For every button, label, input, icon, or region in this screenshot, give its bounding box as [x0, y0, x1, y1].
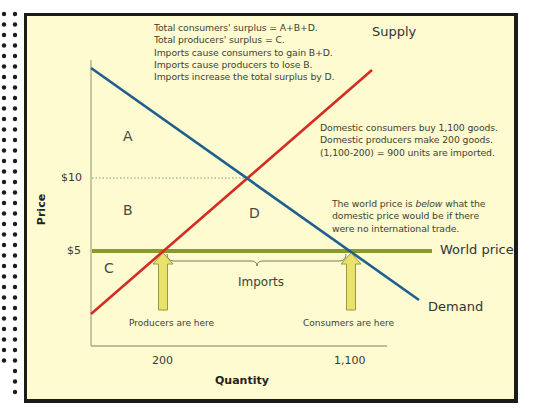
summary-line: Imports cause producers to lose B. — [154, 59, 334, 71]
world-price-label: World price — [440, 242, 514, 257]
domestic-line: (1,100-200) = 900 units are imported. — [320, 147, 498, 159]
domestic-line: Domestic producers make 200 goods. — [320, 134, 498, 146]
region-b-label: B — [123, 202, 133, 218]
x-axis-title: Quantity — [215, 374, 269, 387]
surplus-summary-notes: Total consumers' surplus = A+B+D. Total … — [154, 22, 334, 83]
summary-line: Total consumers' surplus = A+B+D. — [154, 22, 334, 34]
x-tick-1100: 1,100 — [334, 354, 366, 367]
world-note-text: The world price is — [332, 198, 415, 209]
y-tick-5: $5 — [67, 244, 81, 257]
x-tick-200: 200 — [152, 354, 173, 367]
region-d-label: D — [249, 205, 260, 221]
producers-here-label: Producers are here — [129, 318, 214, 328]
world-note-line: were no international trade. — [332, 223, 485, 235]
world-note-emphasis: below — [415, 198, 442, 209]
y-tick-10: $10 — [61, 171, 82, 184]
world-note-line: The world price is below what the — [332, 198, 485, 210]
demand-label: Demand — [428, 299, 483, 314]
summary-line: Imports increase the total surplus by D. — [154, 71, 334, 83]
producers-arrow — [153, 253, 173, 310]
domestic-line: Domestic consumers buy 1,100 goods. — [320, 122, 498, 134]
imports-brace — [167, 254, 346, 266]
world-note-line: domestic price would be if there — [332, 210, 485, 222]
y-axis-title: Price — [35, 194, 48, 225]
summary-line: Imports cause consumers to gain B+D. — [154, 47, 334, 59]
supply-label: Supply — [372, 24, 416, 39]
world-note-text: what the — [442, 198, 485, 209]
consumers-here-label: Consumers are here — [303, 318, 394, 328]
consumers-arrow — [341, 253, 361, 310]
region-a-label: A — [123, 128, 133, 144]
world-price-note: The world price is below what the domest… — [332, 198, 485, 235]
domestic-notes: Domestic consumers buy 1,100 goods. Dome… — [320, 122, 498, 159]
demand-line — [91, 68, 419, 300]
region-c-label: C — [104, 260, 114, 276]
supply-line — [91, 70, 372, 314]
imports-label: Imports — [238, 275, 284, 289]
summary-line: Total producers' surplus = C. — [154, 34, 334, 46]
